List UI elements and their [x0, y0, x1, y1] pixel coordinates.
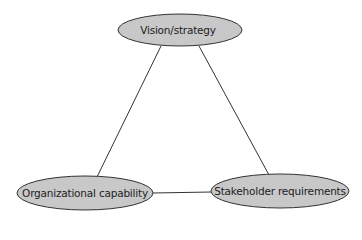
edge-org-stakeholder	[153, 192, 211, 193]
edge-vision-org	[97, 46, 161, 177]
node-stakeholder-label: Stakeholder requirements	[214, 185, 346, 197]
node-org-label: Organizational capability	[22, 187, 148, 199]
edge-vision-stakeholder	[199, 46, 269, 175]
node-vision-label: Vision/strategy	[140, 24, 216, 36]
